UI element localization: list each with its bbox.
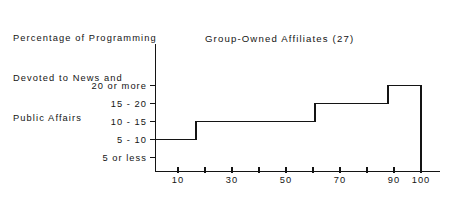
step-curve (156, 86, 421, 172)
plot-area (0, 0, 467, 222)
chart-figure: Percentage of Programming Devoted to New… (0, 0, 467, 222)
